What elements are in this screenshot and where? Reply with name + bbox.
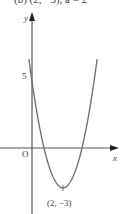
y-intercept-label: 5 — [22, 72, 27, 81]
parabola-graph — [0, 0, 127, 214]
y-axis-label: y — [24, 14, 28, 23]
x-axis-label: x — [113, 154, 117, 163]
vertex-label: (2, −3) — [47, 199, 72, 208]
origin-label: O — [22, 150, 29, 159]
x-axis-arrow-icon — [110, 145, 119, 151]
parabola-curve — [29, 59, 97, 188]
y-axis-arrow-icon — [29, 12, 35, 21]
